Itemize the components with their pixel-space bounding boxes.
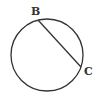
chord-bc <box>38 20 81 67</box>
label-b: B <box>31 5 40 18</box>
circle-diagram: B C <box>0 0 102 99</box>
label-c: C <box>84 65 93 78</box>
